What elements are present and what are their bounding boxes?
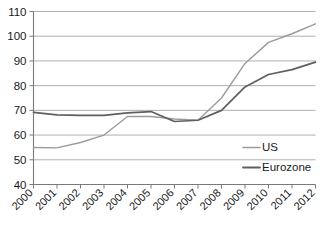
y-tick-marks (30, 12, 34, 185)
line-chart: 405060708090100110 200020012002200320042… (0, 0, 326, 226)
x-tick-label-2007: 2007 (174, 186, 200, 212)
y-axis-tick-labels: 405060708090100110 (7, 6, 26, 191)
y-gridlines (34, 12, 316, 160)
series-line-eurozone (34, 62, 316, 121)
x-tick-marks (34, 185, 316, 189)
x-tick-label-2001: 2001 (33, 186, 59, 212)
y-tick-label-110: 110 (8, 6, 26, 18)
y-tick-label-50: 50 (14, 154, 27, 166)
legend-label-eurozone: Eurozone (262, 161, 311, 173)
x-tick-label-2003: 2003 (80, 186, 106, 212)
x-axis-tick-labels: 2000200120022003200420052006200720082009… (9, 186, 317, 212)
y-tick-label-80: 80 (14, 80, 27, 92)
y-tick-label-90: 90 (14, 55, 27, 67)
x-tick-label-2004: 2004 (103, 186, 129, 212)
x-tick-label-2011: 2011 (268, 186, 293, 211)
y-tick-label-100: 100 (7, 30, 26, 42)
x-tick-label-2008: 2008 (197, 186, 223, 212)
x-tick-label-2009: 2009 (221, 186, 247, 212)
x-tick-label-2005: 2005 (127, 186, 153, 212)
x-tick-label-2010: 2010 (244, 186, 270, 212)
y-tick-label-60: 60 (14, 129, 27, 141)
legend-label-us: US (262, 141, 278, 153)
x-tick-label-2002: 2002 (56, 186, 82, 212)
chart-legend: USEurozone (243, 141, 311, 173)
chart-canvas: 405060708090100110 200020012002200320042… (0, 0, 326, 226)
y-tick-label-70: 70 (14, 104, 27, 116)
x-tick-label-2006: 2006 (150, 186, 176, 212)
x-tick-label-2012: 2012 (291, 186, 317, 212)
